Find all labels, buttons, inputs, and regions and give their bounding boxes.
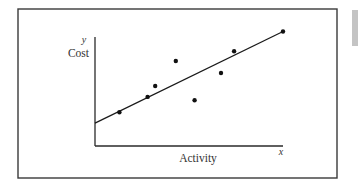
y-axis-symbol: y xyxy=(81,34,87,45)
chart-frame xyxy=(18,9,337,178)
data-point xyxy=(174,59,178,63)
data-point xyxy=(219,71,223,75)
axes xyxy=(95,37,283,146)
data-point xyxy=(153,84,157,88)
data-point xyxy=(192,98,196,102)
data-point xyxy=(232,49,236,53)
side-tab-marker xyxy=(352,10,358,46)
x-axis-title: Activity xyxy=(179,152,217,165)
data-point xyxy=(145,95,149,99)
regression-line xyxy=(95,32,283,124)
chart-figure: y Cost x Activity xyxy=(0,0,358,189)
data-point xyxy=(281,29,285,33)
y-axis-title: Cost xyxy=(68,47,90,59)
data-point xyxy=(117,110,121,114)
x-axis-symbol: x xyxy=(278,146,284,157)
